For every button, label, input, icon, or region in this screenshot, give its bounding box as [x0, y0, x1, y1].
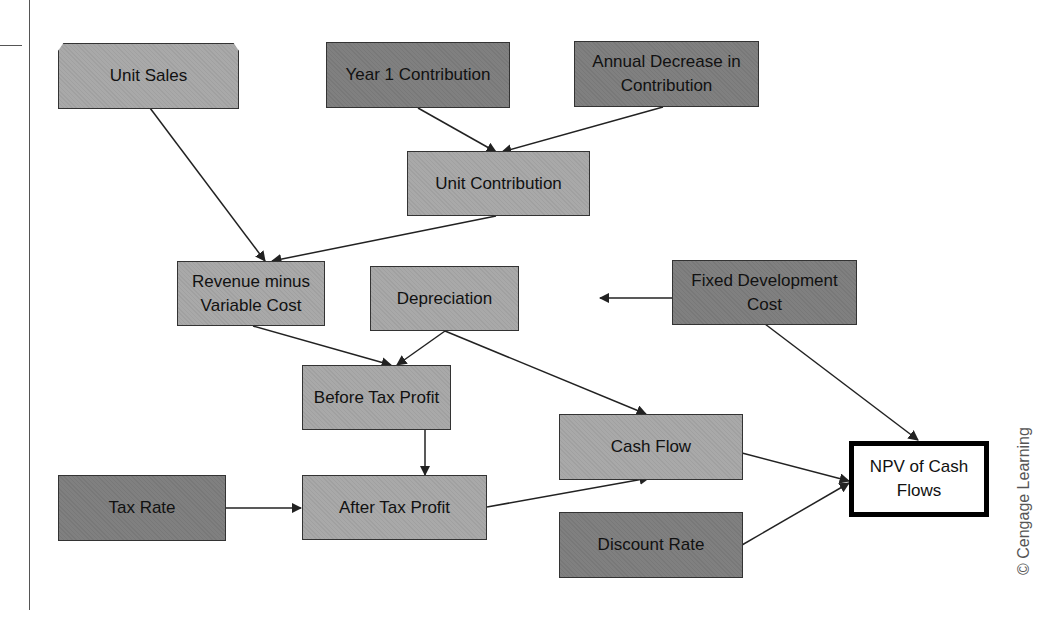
node-label: After Tax Profit	[339, 496, 450, 520]
node-label: Tax Rate	[108, 496, 175, 520]
node-label: Unit Contribution	[435, 172, 562, 196]
node-tax-rate: Tax Rate	[58, 475, 226, 541]
edge-depreciation-to-beforetax	[397, 331, 445, 365]
node-unit-contribution: Unit Contribution	[407, 151, 590, 216]
node-label: Depreciation	[397, 287, 492, 311]
edge-annualdec-to-unitcontrib	[502, 107, 663, 152]
node-before-tax-profit: Before Tax Profit	[302, 365, 451, 430]
node-after-tax-profit: After Tax Profit	[302, 475, 487, 540]
edge-cashflow-to-npv	[742, 453, 849, 481]
node-label: Year 1 Contribution	[346, 63, 491, 87]
node-year1-contribution: Year 1 Contribution	[326, 42, 510, 108]
edge-unitsales-to-revenue	[150, 108, 265, 261]
edge-revenue-to-beforetax	[253, 326, 391, 365]
edge-aftertax-to-cashflow	[487, 478, 649, 507]
node-label-line1: NPV of Cash	[870, 455, 968, 479]
node-revenue-minus-vc: Revenue minus Variable Cost	[177, 261, 325, 326]
node-cash-flow: Cash Flow	[559, 414, 743, 480]
edge-unitcontrib-to-revenue	[272, 216, 496, 261]
copyright-credit: © Cengage Learning	[1015, 427, 1033, 575]
node-label: Discount Rate	[598, 533, 705, 557]
node-label-line2: Variable Cost	[201, 294, 302, 318]
node-unit-sales: Unit Sales	[58, 43, 239, 109]
edge-fixeddev-to-npv	[765, 324, 918, 440]
edge-discountrate-to-npv	[742, 483, 849, 545]
node-label-line1: Fixed Development	[691, 269, 837, 293]
node-npv-output: NPV of Cash Flows	[849, 441, 989, 517]
node-label-line2: Cost	[747, 293, 782, 317]
node-fixed-development-cost: Fixed Development Cost	[672, 260, 857, 325]
edge-depreciation-to-cashflow	[445, 331, 646, 414]
node-depreciation: Depreciation	[370, 266, 519, 331]
edge-year1-to-unitcontrib	[418, 108, 496, 152]
node-annual-decrease: Annual Decrease in Contribution	[574, 41, 759, 107]
node-label-line2: Flows	[897, 479, 941, 503]
node-label-line1: Revenue minus	[192, 270, 310, 294]
node-label: Before Tax Profit	[314, 386, 439, 410]
node-label-line2: Contribution	[621, 74, 713, 98]
node-label-line1: Annual Decrease in	[592, 50, 740, 74]
node-label: Cash Flow	[611, 435, 691, 459]
node-label: Unit Sales	[110, 64, 187, 88]
node-discount-rate: Discount Rate	[559, 512, 743, 578]
